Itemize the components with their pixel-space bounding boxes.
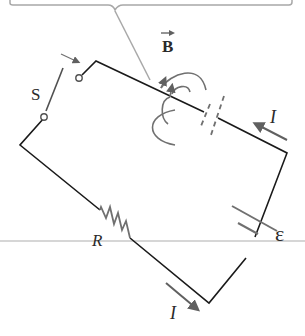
dashed-plates [201, 96, 224, 138]
switch-arrow-icon [61, 54, 78, 62]
switch-blade[interactable] [46, 68, 63, 111]
label-resistor: R [92, 232, 102, 249]
callout-box [10, 0, 292, 10]
circuit-diagram [0, 0, 305, 336]
label-current-top: I [270, 108, 276, 126]
label-current-bottom: I [170, 304, 176, 322]
label-switch: S [31, 86, 40, 103]
battery-short-plate [238, 223, 258, 234]
battery-long-plate [232, 206, 277, 231]
label-emf: ε [275, 223, 284, 245]
switch-contact-lower [41, 114, 47, 120]
resistor [100, 207, 130, 238]
wire [20, 61, 287, 303]
callout-pointer [115, 11, 150, 80]
label-field-b: B [162, 38, 173, 55]
switch-contact-upper [76, 75, 82, 81]
